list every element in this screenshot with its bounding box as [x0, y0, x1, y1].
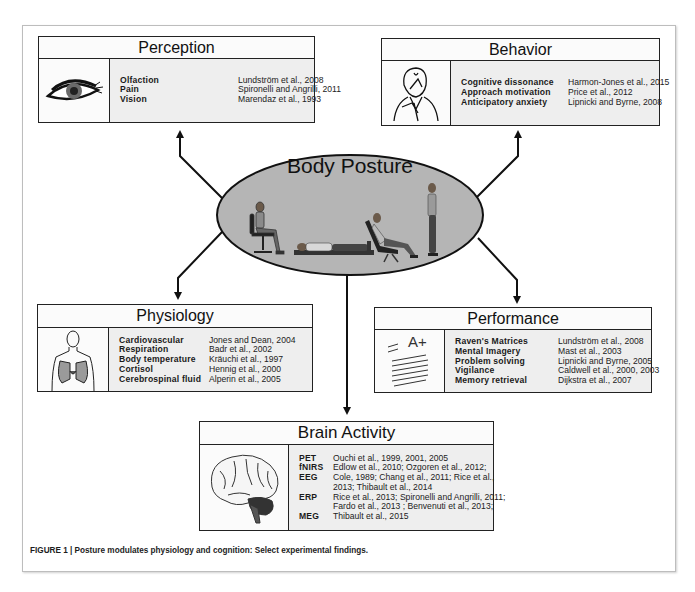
grade-text: A+: [408, 333, 427, 350]
finding-row: Cerebrospinal fluidAlperin et al., 2005: [119, 374, 295, 384]
brain-icon-cell: [200, 445, 289, 530]
finding-reference: Lipnicki and Byrne, 2008: [568, 98, 662, 108]
brain-activity-title: Brain Activity: [200, 422, 493, 445]
brain-icon: [206, 449, 282, 527]
graded-paper-icon: A+: [382, 333, 438, 389]
physiology-title: Physiology: [38, 305, 312, 328]
perception-icon-cell: [39, 59, 110, 122]
behavior-findings: Cognitive dissonanceHarmon-Jones et al.,…: [451, 61, 659, 125]
finding-row: Memory retrievalDijkstra et al., 2007: [455, 376, 659, 386]
finding-topic: EEG: [299, 473, 333, 483]
behavior-icon-cell: [382, 61, 451, 125]
figure-caption: FIGURE 1 | Posture modulates physiology …: [30, 546, 368, 555]
eye-icon: [44, 76, 104, 106]
behavior-box: Behavior Cognitive dissonanceHarmon-Jone…: [381, 38, 660, 126]
behavior-title: Behavior: [382, 39, 659, 61]
finding-row: VisionMarendaz et al., 1993: [120, 95, 341, 105]
finding-reference: Alperin et al., 2005: [209, 374, 281, 384]
finding-reference: Marendaz et al., 1993: [238, 95, 321, 105]
finding-reference: Dijkstra et al., 2007: [558, 376, 632, 386]
finding-reference: Thibault et al., 2015: [333, 512, 409, 522]
finding-topic: ERP: [299, 492, 333, 502]
performance-icon-cell: A+: [375, 330, 445, 392]
thinking-man-icon: [388, 63, 444, 123]
arrow-to-performance: [478, 238, 517, 300]
finding-topic: Vision: [120, 95, 238, 105]
brain-activity-findings: PETOuchi et al., 1999, 2001, 2005fNIRSEd…: [289, 445, 493, 530]
finding-topic: Cerebrospinal fluid: [119, 374, 209, 384]
body-posture-title: Body Posture: [217, 154, 483, 178]
perception-box: Perception OlfactionLundström et al., 20…: [38, 36, 315, 123]
brain-activity-box: Brain Activity PETOuchi et al., 1999, 20…: [199, 421, 494, 531]
arrow-to-physiology: [178, 232, 222, 296]
finding-row: Anticipatory anxietyLipnicki and Byrne, …: [461, 98, 669, 108]
arrow-to-perception: [180, 134, 222, 198]
performance-findings: Raven's MatricesLundström et al., 2008Me…: [445, 330, 651, 392]
perception-title: Perception: [39, 37, 314, 59]
finding-topic: MEG: [299, 512, 333, 522]
physiology-icon-cell: [38, 328, 109, 391]
physiology-findings: CardiovascularJones and Dean, 2004Respir…: [109, 328, 312, 391]
arrow-to-behavior: [477, 134, 518, 197]
performance-box: Performance A+ Raven's MatricesLundström…: [374, 307, 652, 393]
torso-lungs-icon: [48, 329, 98, 391]
finding-row: MEGThibault et al., 2015: [299, 512, 505, 522]
finding-topic: Memory retrieval: [455, 376, 558, 386]
physiology-box: Physiology CardiovascularJones and Dean,…: [37, 304, 313, 392]
finding-topic: Anticipatory anxiety: [461, 98, 568, 108]
performance-title: Performance: [375, 308, 651, 330]
perception-findings: OlfactionLundström et al., 2008PainSpiro…: [110, 59, 314, 122]
